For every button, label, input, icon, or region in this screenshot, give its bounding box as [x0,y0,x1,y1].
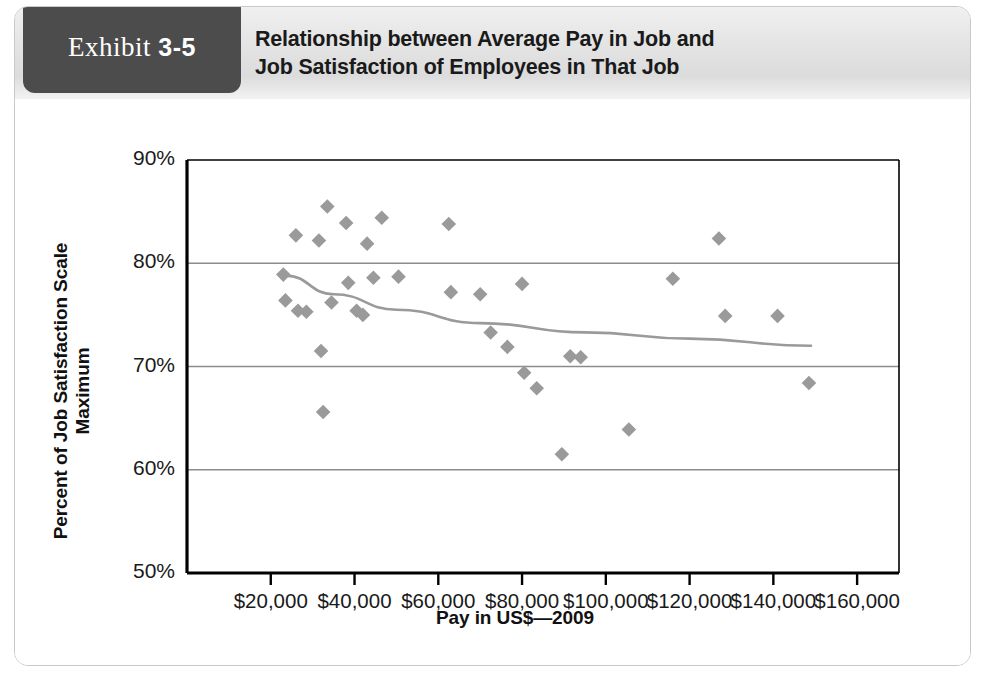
data-point-marker [555,447,570,462]
data-point-marker [312,233,327,248]
data-point-marker [718,309,733,324]
data-point-marker [324,295,339,310]
exhibit-title-line-2: Job Satisfaction of Employees in That Jo… [255,53,945,81]
data-point-marker [289,228,304,243]
data-point-marker [320,199,335,214]
data-point-marker [339,216,354,231]
data-point-marker [299,304,314,319]
data-point-marker [374,211,389,226]
data-point-marker [473,287,488,302]
x-tick-marks [271,573,857,585]
exhibit-title: Relationship between Average Pay in Job … [255,25,945,81]
data-point-marker [276,267,291,282]
data-point-marker [529,381,544,396]
exhibit-number-tab: Exhibit 3-5 [23,7,241,93]
data-point-marker [517,365,532,380]
data-point-marker [366,270,381,285]
data-point-marker [770,309,785,324]
data-point-marker [314,344,329,359]
y-tick-label-70: 70% [109,353,175,377]
y-tick-label-90: 90% [109,146,175,170]
data-point-marker [444,285,459,300]
data-point-marker [573,350,588,365]
data-point-marker [341,276,356,291]
data-point-marker [483,325,498,340]
data-point-marker [316,405,331,420]
data-point-marker [802,376,817,391]
data-point-marker [712,231,727,246]
data-point-marker [278,293,293,308]
chart-area: 90%80%70%60%50% $20,000$40,000$60,000$80… [15,99,970,665]
data-point-marker [500,340,515,355]
y-tick-label-60: 60% [109,456,175,480]
data-point-marker [391,269,406,284]
exhibit-word: Exhibit [68,32,151,62]
data-point-marker [441,217,456,232]
x-axis-title: Pay in US$—2009 [165,607,865,629]
exhibit-header: Exhibit 3-5 Relationship between Average… [15,7,970,99]
y-tick-label-80: 80% [109,249,175,273]
y-tick-label-50: 50% [109,559,175,583]
exhibit-number: 3-5 [158,33,196,61]
gridlines [187,263,899,470]
exhibit-number-tab-label: Exhibit 3-5 [68,32,196,63]
y-axis-title: Percent of Job Satisfaction Scale Maximu… [50,226,94,556]
data-point-marker [622,422,637,437]
data-point-marker [666,271,681,286]
exhibit-card: Exhibit 3-5 Relationship between Average… [14,6,971,666]
data-point-marker [360,236,375,251]
exhibit-title-line-1: Relationship between Average Pay in Job … [255,25,945,53]
data-point-marker [515,277,530,292]
